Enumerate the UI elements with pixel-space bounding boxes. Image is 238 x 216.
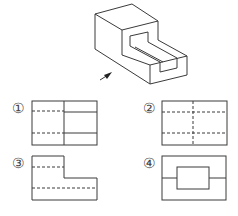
option-4-view[interactable]: ④	[143, 155, 226, 200]
option-3-view[interactable]: ③	[12, 155, 97, 200]
option-3-label: ③	[12, 155, 25, 171]
option-1-label: ①	[12, 100, 25, 116]
isometric-block	[95, 4, 187, 84]
option-1-view[interactable]: ①	[12, 100, 97, 145]
option-4-label: ④	[143, 155, 156, 171]
figure-canvas: ① ② ③ ④	[0, 0, 238, 216]
option-2-label: ②	[143, 100, 156, 116]
option-2-view[interactable]: ②	[143, 100, 227, 145]
view-direction-arrow	[100, 72, 112, 80]
